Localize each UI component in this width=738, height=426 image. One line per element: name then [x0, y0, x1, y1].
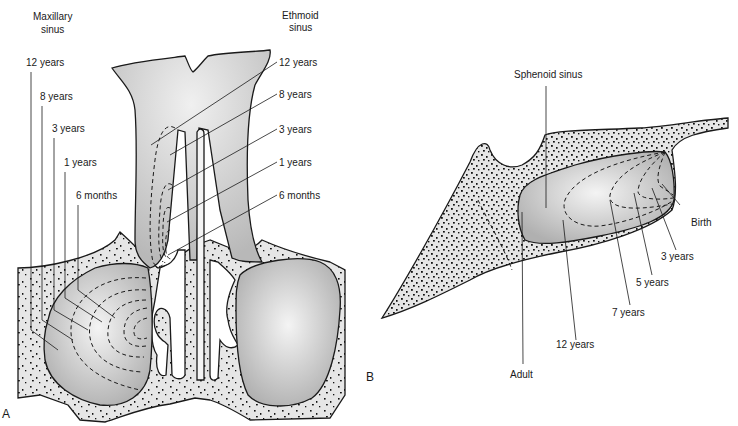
ethmoid-label-3-years: 3 years [279, 124, 312, 135]
ethmoid-title-line2: sinus [289, 22, 312, 33]
maxillary-label-6-months: 6 months [76, 190, 117, 201]
panel-b-label: B [366, 370, 374, 384]
sphenoid-label-5-years: 5 years [636, 277, 669, 288]
sphenoid-label-adult: Adult [510, 369, 533, 380]
ethmoid-title-line1: Ethmoid [282, 10, 319, 21]
nasal-septum [197, 129, 204, 380]
maxillary-label-1-years: 1 years [64, 157, 97, 168]
maxillary-label-3-years: 3 years [52, 123, 85, 134]
sphenoid-label-7-years: 7 years [612, 307, 645, 318]
sphenoid-title: Sphenoid sinus [514, 69, 582, 80]
panel-a-label: A [2, 407, 10, 421]
maxillary-title-line1: Maxillary [33, 11, 72, 22]
ethmoid-label-8-years: 8 years [279, 89, 312, 100]
ethmoid-label-6-months: 6 months [279, 190, 320, 201]
maxillary-label-8-years: 8 years [40, 91, 73, 102]
sinus-development-figure: Maxillary sinus Ethmoid sinus 12 years 8… [0, 0, 738, 426]
panel-a: Maxillary sinus Ethmoid sinus 12 years 8… [2, 10, 345, 422]
maxillary-title-line2: sinus [41, 24, 64, 35]
sphenoid-label-3-years: 3 years [661, 251, 694, 262]
ethmoid-wedge [112, 50, 270, 268]
sphenoid-label-12-years: 12 years [556, 339, 594, 350]
ethmoid-label-12-years: 12 years [279, 57, 317, 68]
ethmoid-label-1-years: 1 years [279, 157, 312, 168]
maxillary-label-12-years: 12 years [26, 57, 64, 68]
sphenoid-label-birth: Birth [691, 217, 712, 228]
panel-b: Sphenoid sinus Birth 3 years 5 years 7 y… [366, 69, 728, 384]
